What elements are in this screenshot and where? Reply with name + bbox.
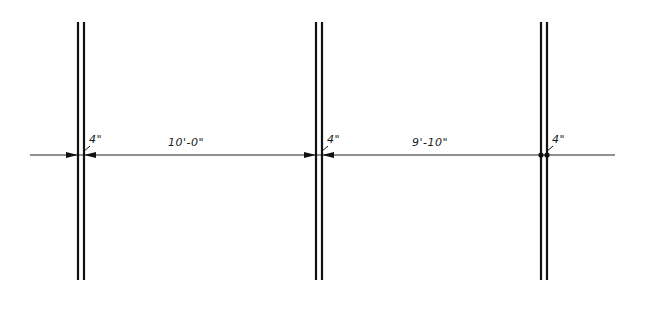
arrowhead-icon [84,152,96,158]
arrowhead-icon [304,152,316,158]
wall-dimension-diagram [0,0,647,311]
wall-3 [541,22,547,280]
arrowhead-icon [322,152,334,158]
wall-2 [316,22,322,280]
wall-2-thickness-label: 4" [327,133,340,146]
arrowhead-icon [66,152,78,158]
span-1-dimension-label: 10'-0" [168,136,204,149]
wall-1 [78,22,84,280]
wall-3-thickness-label: 4" [552,133,565,146]
wall-1-thickness-label: 4" [89,133,102,146]
span-2-dimension-label: 9'-10" [412,136,448,149]
dimension-dot-icon [538,152,543,157]
dimension-dot-icon [544,152,549,157]
